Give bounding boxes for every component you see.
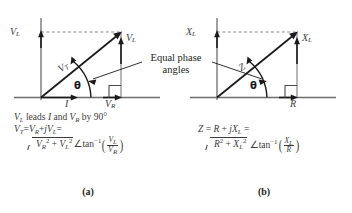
label-vertical-axis-a: VL — [10, 27, 20, 38]
panel-a: VL VL VT I VR θ VL leads I and VR by 90°… — [0, 0, 176, 213]
annotation-line-2: angles — [132, 64, 220, 76]
label-horizontal-vr-a: VR — [105, 99, 115, 110]
xl-tip-arrowhead-b — [294, 37, 300, 44]
phasor-impedance-figure: VL VL VT I VR θ VL leads I and VR by 90°… — [0, 0, 352, 213]
caption-a: (a) — [0, 186, 176, 197]
equation-a-line1: VL leads I and VR by 90° — [0, 112, 176, 124]
vl-tip-arrowhead-a — [118, 37, 124, 44]
label-theta-b: θ — [250, 81, 257, 91]
label-vector-tip-b: XL — [302, 33, 312, 44]
vl-axis-arrowhead-a — [38, 30, 44, 37]
label-horizontal-r-b: R — [290, 99, 296, 109]
equal-phase-angles-annotation: Equal phase angles — [132, 52, 220, 76]
panel-b: XL XL Z R θ Z = R + jXL = R2 + XL2 ∠tan−… — [176, 0, 352, 213]
annotation-line-1: Equal phase — [132, 52, 220, 64]
equation-b-line3: R2 + XL2 ∠tan−1(XLR) — [176, 137, 352, 155]
label-horizontal-current-a: I — [65, 99, 68, 109]
label-vertical-axis-b: XL — [186, 27, 196, 38]
equation-b-line2: Z = R + jXL = — [176, 112, 352, 136]
equations-a: VL leads I and VR by 90° VT=VR+jVL= VR2 … — [0, 112, 176, 154]
equation-a-line2: VT=VR+jVL= — [0, 124, 176, 136]
equations-b: Z = R + jXL = R2 + XL2 ∠tan−1(XLR) — [176, 112, 352, 154]
xl-axis-arrowhead-b — [214, 30, 220, 37]
caption-b: (b) — [176, 186, 352, 197]
label-theta-a: θ — [74, 81, 81, 91]
current-arrowhead-a — [71, 95, 78, 101]
label-vector-tip-a: VL — [126, 33, 136, 44]
equation-a-line3: VR2 + VL2∠tan−1(VLVR) — [0, 136, 176, 154]
